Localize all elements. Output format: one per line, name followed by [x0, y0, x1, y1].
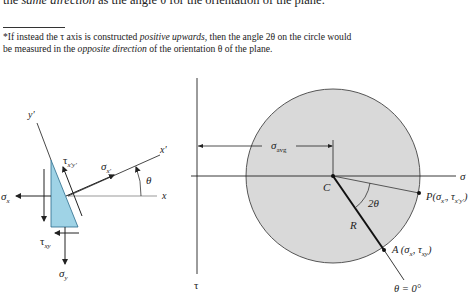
- point-A-label: A (σx, τxy): [391, 244, 432, 258]
- tau-x-prime-y-prime-label: τx′y′: [63, 154, 77, 169]
- point-P-label: P(σx′, τx′y′): [425, 191, 468, 205]
- sigma-x-prime-label: σx′: [101, 160, 112, 175]
- theta-arc: [136, 167, 141, 196]
- figure: x x′ y′ θ σx σx′ τx′y′ τxy σy τ: [0, 0, 473, 298]
- point-C: [331, 174, 335, 178]
- sigma-avg-arrow-left: [198, 144, 203, 148]
- x-prime-label: x′: [159, 144, 167, 155]
- sigma-y-label: σy: [59, 267, 68, 282]
- mohr-circle-diagram: τ σ σavg 2θ C R P(σx′, τx′y′) A (σx, τxy…: [191, 78, 468, 294]
- center-label: C: [323, 181, 331, 193]
- x-axis-label: x: [161, 190, 167, 201]
- theta-zero-label: θ = 0°: [394, 283, 422, 294]
- theta-label: θ: [146, 174, 152, 186]
- y-prime-label: y′: [27, 109, 35, 120]
- stress-element-diagram: x x′ y′ θ σx σx′ τx′y′ τxy σy: [1, 109, 167, 282]
- point-P: [417, 191, 421, 195]
- tau-axis-label: τ: [194, 279, 199, 291]
- sigma-axis-label: σ: [460, 170, 466, 182]
- radius-label: R: [349, 219, 357, 231]
- sigma-x-label: σx: [1, 190, 10, 205]
- two-theta-label: 2θ: [368, 197, 380, 209]
- y-prime-axis-line: [37, 123, 51, 160]
- point-A: [382, 248, 386, 252]
- tau-xy-label: τxy: [40, 235, 52, 250]
